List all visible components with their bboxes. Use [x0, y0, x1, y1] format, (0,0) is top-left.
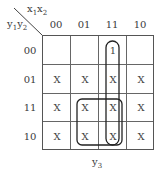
square-loop — [77, 99, 122, 145]
output-label: y3 — [92, 157, 102, 170]
grouping-loops — [0, 0, 166, 174]
column-11-vertical-loop — [106, 41, 119, 145]
